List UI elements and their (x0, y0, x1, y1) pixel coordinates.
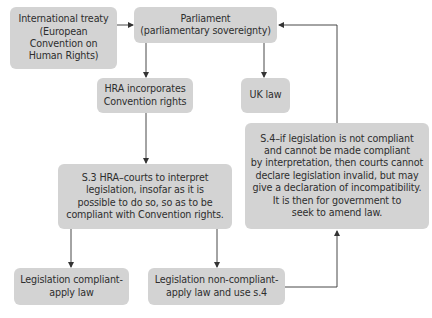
node-parliament-label: Parliament (parliamentary sovereignty) (140, 13, 271, 38)
hra-flowchart: International treaty (European Conventio… (0, 0, 432, 318)
node-international-treaty-label: International treaty (European Conventio… (19, 13, 109, 63)
node-hra-incorporates-label: HRA incorporates Convention rights (104, 83, 187, 108)
edge-noncompliant-s4 (285, 231, 337, 287)
node-parliament: Parliament (parliamentary sovereignty) (134, 7, 277, 43)
node-international-treaty: International treaty (European Conventio… (10, 7, 117, 69)
node-uk-law-label: UK law (250, 89, 282, 101)
node-legislation-compliant: Legislation compliant- apply law (14, 268, 129, 305)
node-s4-label: S.4–if legislation is not compliant and … (251, 133, 423, 220)
node-uk-law: UK law (241, 78, 290, 113)
node-legislation-compliant-label: Legislation compliant- apply law (20, 274, 123, 299)
node-hra-incorporates: HRA incorporates Convention rights (97, 78, 193, 113)
node-legislation-non-compliant: Legislation non-compliant- apply law and… (148, 268, 285, 305)
node-s3-hra: S.3 HRA–courts to interpret legislation,… (58, 164, 232, 229)
node-legislation-non-compliant-label: Legislation non-compliant- apply law and… (155, 274, 279, 299)
node-s3-hra-label: S.3 HRA–courts to interpret legislation,… (66, 172, 223, 222)
node-s4: S.4–if legislation is not compliant and … (245, 123, 429, 229)
